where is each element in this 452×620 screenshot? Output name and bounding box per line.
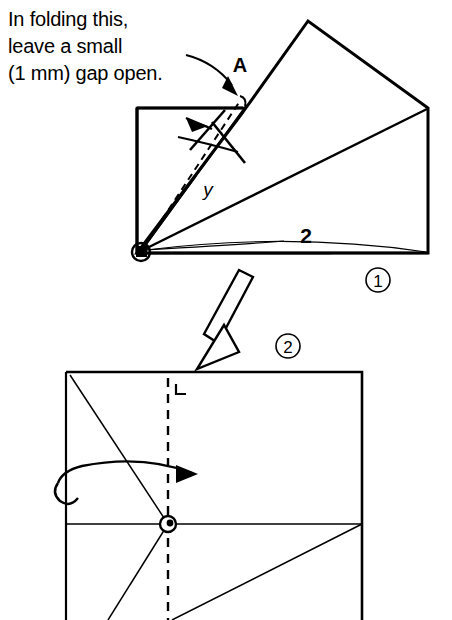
diagonal-lower-right [172,524,362,620]
turn-arrow-head [176,465,198,483]
label-edge-2: 2 [300,224,312,247]
turn-arrow-curve [58,461,192,483]
step-1-figure: A y 2 1 [132,21,428,292]
step-1-badge-number: 1 [373,272,382,291]
pivot-point-dot [136,246,147,257]
diagram-page: In folding this, leave a small (1 mm) ga… [0,0,452,620]
step-2-badge-number: 2 [283,338,292,357]
right-angle-mark [176,384,186,394]
gap-arrow-curve [186,55,232,85]
origami-diagram: A y 2 1 2 [0,0,452,620]
label-fold-y: y [201,179,214,200]
step-2-figure [55,372,362,620]
step-2-badge: 2 [276,334,300,358]
diagonal-lower-left [108,524,168,620]
gap-mark [240,96,245,106]
centre-pivot-dot [167,520,174,527]
diagonal-upper-left [70,375,168,524]
lower-rect-top-right [66,372,362,620]
transition-arrow [197,270,253,369]
label-point-a: A [233,54,247,76]
gap-arrow-head [222,76,238,96]
